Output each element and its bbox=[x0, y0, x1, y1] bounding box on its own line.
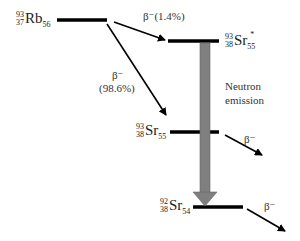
sr93-excited-label: 9338Sr55* bbox=[225, 30, 254, 51]
beta-excited-branch-label: β⁻(1.4%) bbox=[143, 10, 185, 23]
beta-arrow-to-excited bbox=[114, 22, 165, 40]
beta-sr93-label: β⁻ bbox=[244, 133, 255, 146]
sr93-label: 9338Sr55 bbox=[136, 121, 166, 141]
rb93-label: 9337Rb56 bbox=[16, 9, 51, 29]
neutron-emission-label-line2: emission bbox=[225, 94, 264, 106]
neutron-emission-arrow bbox=[193, 43, 217, 206]
sr92-label: 9238Sr54 bbox=[160, 196, 190, 216]
beta-ground-branch-symbol: β⁻ bbox=[112, 69, 123, 82]
beta-sr92-label: β⁻ bbox=[264, 200, 275, 213]
neutron-emission-label-line1: Neutron bbox=[225, 80, 261, 92]
beta-ground-branch-percent: (98.6%) bbox=[99, 82, 135, 94]
